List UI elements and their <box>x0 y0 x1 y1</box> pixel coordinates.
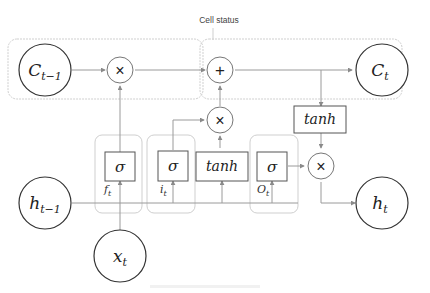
output-gate-label: Ot <box>257 183 270 198</box>
input-gate-label: it <box>160 183 168 198</box>
cell-tanh: tanh <box>294 106 346 133</box>
output-gate-sigma: σ <box>257 152 287 181</box>
svg-text:×: × <box>115 62 124 79</box>
svg-text:σ: σ <box>168 157 179 175</box>
candidate-tanh: tanh <box>196 152 248 181</box>
cell-status-title: Cell status <box>199 15 239 25</box>
faint-caption <box>150 285 260 288</box>
node-c-prev: Ct−1 <box>19 44 71 96</box>
svg-text:×: × <box>316 158 325 175</box>
forget-gate-sigma: σ <box>105 152 135 181</box>
svg-text:tanh: tanh <box>206 158 238 174</box>
svg-text:σ: σ <box>115 158 126 176</box>
input-gate-sigma: σ <box>158 151 188 181</box>
lstm-diagram: Cell status <box>0 0 430 293</box>
svg-text:×: × <box>215 112 224 129</box>
node-h-prev: ht−1 <box>19 177 71 229</box>
svg-text:tanh: tanh <box>304 111 336 127</box>
svg-text:+: + <box>215 61 225 80</box>
forget-multiply-op: × <box>107 57 133 83</box>
forget-gate-label: ft <box>103 183 112 198</box>
output-multiply-op: × <box>308 153 334 179</box>
input-multiply-op: × <box>207 107 233 133</box>
svg-text:σ: σ <box>267 158 278 176</box>
node-h-t: ht <box>356 177 408 229</box>
node-x-t: xt <box>94 230 146 282</box>
node-c-t: Ct <box>356 44 408 96</box>
cell-add-op: + <box>207 57 233 83</box>
